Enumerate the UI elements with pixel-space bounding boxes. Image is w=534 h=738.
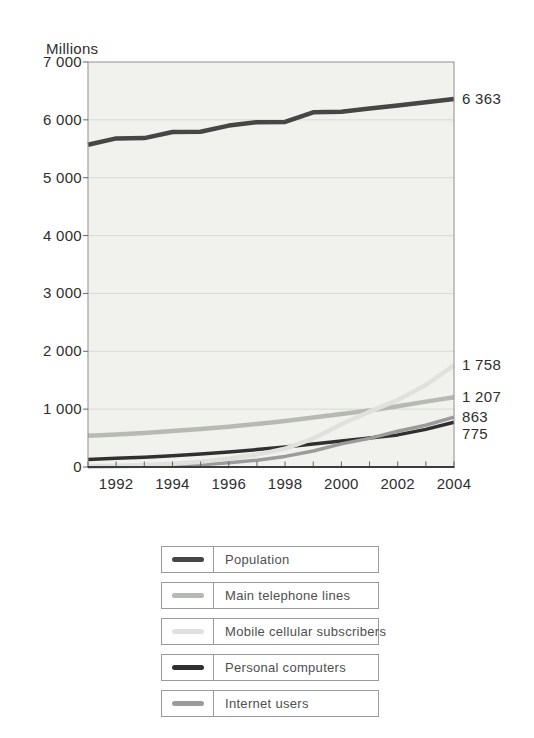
legend-swatch-cell (162, 583, 214, 608)
legend-item-main-telephone-lines: Main telephone lines (161, 582, 379, 609)
legend-line-swatch-icon (172, 593, 204, 598)
y-tick-label: 1 000 (43, 400, 82, 417)
y-tick-label: 7 000 (43, 53, 82, 70)
series-end-label: 1 758 (462, 356, 501, 373)
y-tick-label: 4 000 (43, 227, 82, 244)
legend-item-label: Personal computers (214, 660, 346, 675)
series-end-label: 775 (462, 425, 488, 442)
x-tick-label: 1994 (155, 475, 190, 492)
series-end-label: 1 207 (462, 388, 501, 405)
series-end-label: 863 (462, 408, 488, 425)
series-end-label: 6 363 (462, 90, 501, 107)
legend-swatch-cell (162, 655, 214, 680)
y-tick-label: 0 (73, 458, 82, 475)
x-tick-label: 2004 (437, 475, 472, 492)
y-tick-label: 3 000 (43, 284, 82, 301)
x-tick-label: 1996 (211, 475, 246, 492)
legend-swatch-cell (162, 619, 214, 644)
legend-swatch-cell (162, 547, 214, 572)
y-tick-label: 5 000 (43, 169, 82, 186)
chart-figure: Millions 7 0006 0005 0004 0003 0002 0001… (0, 0, 534, 738)
legend-item-label: Internet users (214, 696, 309, 711)
y-tick-label: 2 000 (43, 342, 82, 359)
chart-legend: PopulationMain telephone linesMobile cel… (161, 546, 379, 717)
legend-line-swatch-icon (172, 665, 204, 670)
legend-item-population: Population (161, 546, 379, 573)
x-tick-label: 1998 (268, 475, 303, 492)
legend-item-mobile-cellular-subscribers: Mobile cellular subscribers (161, 618, 379, 645)
legend-swatch-cell (162, 691, 214, 716)
legend-item-internet-users: Internet users (161, 690, 379, 717)
legend-line-swatch-icon (172, 701, 204, 706)
legend-line-swatch-icon (172, 557, 204, 562)
x-tick-label: 1992 (99, 475, 134, 492)
x-tick-label: 2000 (324, 475, 359, 492)
legend-item-label: Population (214, 552, 289, 567)
legend-item-label: Mobile cellular subscribers (214, 624, 386, 639)
legend-item-personal-computers: Personal computers (161, 654, 379, 681)
line-chart-plot: 7 0006 0005 0004 0003 0002 0001 00001992… (0, 0, 534, 510)
legend-line-swatch-icon (172, 629, 204, 634)
x-tick-label: 2002 (380, 475, 415, 492)
y-tick-label: 6 000 (43, 111, 82, 128)
legend-item-label: Main telephone lines (214, 588, 350, 603)
